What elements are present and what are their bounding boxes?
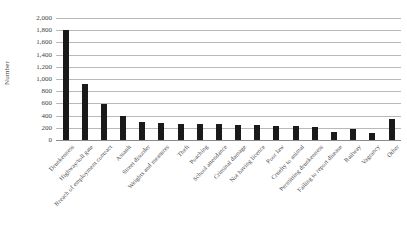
y-tick-label: 1,200 [36,63,52,71]
bar-slot [114,18,133,140]
bar [293,126,299,140]
y-axis-title: Number [0,0,14,145]
y-axis-title-label: Number [3,60,11,84]
bar-slot [248,18,267,140]
bar-slot [267,18,286,140]
bar-slot [344,18,363,140]
bar-slot [382,18,401,140]
x-axis-tick-labels: DrunkennessHighway/toll gateBreach of em… [56,141,401,240]
bar [389,119,395,140]
bar-slot [152,18,171,140]
bar [101,104,107,140]
bar [350,129,356,140]
bar-slot [305,18,324,140]
bar [82,84,88,140]
bar-slot [75,18,94,140]
x-tick-label: Vagrancy [360,143,382,165]
y-tick-label: 1,800 [36,26,52,34]
bar-slot [56,18,75,140]
bar [178,124,184,140]
y-tick-label: 2,000 [36,14,52,22]
bar-chart: Number 2,0001,8001,6001,4001,2001,000800… [0,0,407,240]
bar [369,133,375,140]
bar-slot [229,18,248,140]
x-tick-label: Theft [175,143,190,158]
bar [120,116,126,140]
y-tick-label: 600 [42,99,53,107]
bar-slot [190,18,209,140]
bar [63,30,69,140]
y-tick-label: 1,400 [36,51,52,59]
bar [312,127,318,140]
plot-area [56,18,401,140]
y-axis-tick-labels: 2,0001,8001,6001,4001,2001,0008006004002… [14,18,54,140]
bar [197,124,203,140]
bar [273,126,279,140]
y-tick-label: 1,000 [36,75,52,83]
y-tick-label: 0 [49,136,53,144]
bar [235,125,241,140]
y-tick-label: 800 [42,87,53,95]
bar [331,132,337,140]
bar-slot [171,18,190,140]
y-tick-label: 400 [42,112,53,120]
bar [158,123,164,140]
y-tick-label: 200 [42,124,53,132]
bar [216,124,222,140]
x-tick-label: Other [385,143,400,158]
bar-slot [286,18,305,140]
x-tick-label: Not having licence [228,143,266,183]
bar-slot [363,18,382,140]
bar-slot [324,18,343,140]
bar [139,122,145,140]
bar-slot [94,18,113,140]
bar-slot [133,18,152,140]
y-tick-label: 1,600 [36,38,52,46]
bar-series [56,18,401,140]
bar-slot [209,18,228,140]
bar [254,125,260,140]
